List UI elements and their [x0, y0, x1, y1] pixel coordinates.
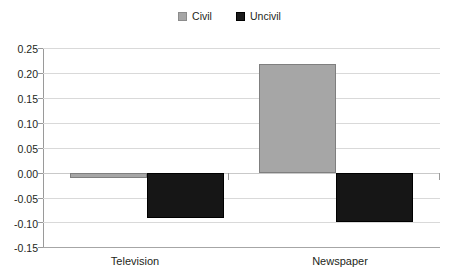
plot-area — [43, 48, 440, 247]
legend-item-uncivil: Uncivil — [236, 11, 281, 22]
legend-item-civil: Civil — [178, 11, 212, 22]
bar-television-civil[interactable] — [70, 173, 147, 178]
bar-newspaper-uncivil[interactable] — [336, 173, 413, 222]
y-tick-label-0: 0.25 — [0, 44, 38, 54]
y-tick-label-6: -0.05 — [0, 194, 38, 204]
legend-label-uncivil: Uncivil — [250, 11, 281, 22]
category-label-newspaper: Newspaper — [265, 255, 415, 267]
uncivil-swatch-icon — [236, 12, 245, 21]
y-tick-label-4: 0.05 — [0, 144, 38, 154]
gridline-0.25 — [43, 48, 440, 49]
legend-label-civil: Civil — [192, 11, 212, 22]
gridline-0.15 — [43, 98, 440, 99]
chart-legend: Civil Uncivil — [0, 6, 459, 26]
bar-newspaper-civil[interactable] — [259, 64, 336, 173]
civil-swatch-icon — [178, 12, 187, 21]
gridline-0.20 — [43, 73, 440, 74]
y-tick-label-1: 0.20 — [0, 69, 38, 79]
category-separator-tick — [228, 173, 229, 180]
category-label-television: Television — [60, 255, 210, 267]
gridline-0.10 — [43, 123, 440, 124]
y-tick-label-7: -0.10 — [0, 219, 38, 229]
y-tick-label-8: -0.15 — [0, 243, 38, 253]
y-tick-label-5: 0.00 — [0, 169, 38, 179]
bar-television-uncivil[interactable] — [147, 173, 224, 218]
y-tick-label-2: 0.15 — [0, 94, 38, 104]
y-tick-label-3: 0.10 — [0, 119, 38, 129]
gridline--0.10 — [43, 222, 440, 223]
gridline--0.15 — [43, 247, 440, 248]
gridline-0.05 — [43, 148, 440, 149]
axis-end-tick — [439, 173, 440, 180]
